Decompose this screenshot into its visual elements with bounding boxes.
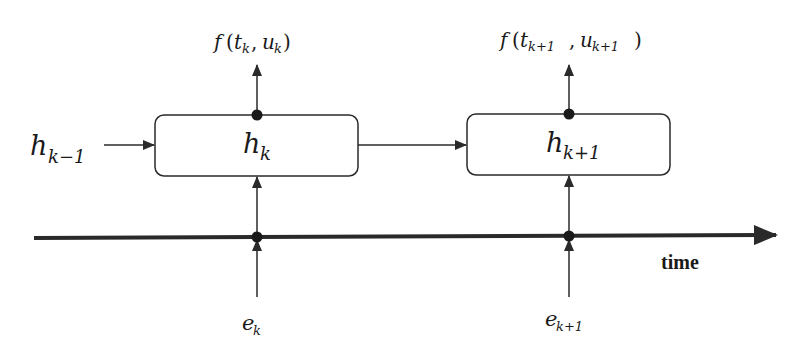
svg-text:h: h [30,130,47,161]
svg-text:f: f [498,28,511,52]
svg-text:(: ( [226,30,234,54]
svg-text:): ) [283,30,291,54]
svg-text:k+1: k+1 [528,39,555,54]
svg-text:h: h [546,127,563,158]
svg-text:u: u [262,30,275,54]
event-node-k [252,232,263,243]
event-label-k: e k [242,311,261,338]
svg-text:k: k [260,143,271,164]
event-label-k1: e k+1 [545,307,583,334]
svg-text:h: h [243,128,260,159]
output-label-k1: f ( t k+1 , u k+1 ) [498,28,642,54]
output-node-k [252,110,263,121]
event-node-k1 [564,231,575,242]
svg-text:u: u [580,28,593,52]
output-label-k: f ( t k , u k ) [212,30,291,56]
svg-text:k−1: k−1 [48,146,85,167]
svg-text:k: k [253,323,261,338]
input-state-label: h k−1 [30,130,85,167]
svg-text:): ) [634,28,642,52]
time-axis-label: time [661,251,699,273]
svg-text:,: , [569,28,575,52]
svg-text:,: , [251,30,257,54]
svg-text:k+1: k+1 [563,142,600,163]
svg-text:k+1: k+1 [556,319,583,334]
svg-text:k: k [274,41,282,56]
time-axis [34,235,776,238]
svg-text:k+1: k+1 [592,39,619,54]
rnn-time-diagram: time h k−1 h k f ( t k , u k ) h k+1 f (… [0,0,785,346]
svg-text:(: ( [512,28,520,52]
svg-text:k: k [242,41,250,56]
svg-text:f: f [212,30,225,54]
output-node-k1 [564,109,575,120]
